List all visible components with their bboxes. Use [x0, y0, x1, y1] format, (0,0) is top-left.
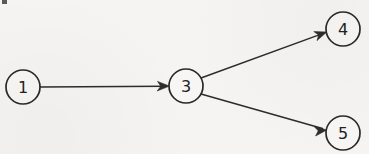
graph-node-4[interactable]: 4	[326, 12, 360, 46]
graph-node-5[interactable]: 5	[326, 116, 360, 150]
graph-node-1[interactable]: 1	[6, 70, 40, 104]
edge-3-to-4-line	[201, 34, 323, 78]
edge-3-to-5-line	[201, 94, 323, 129]
graph-node-1-label: 1	[18, 78, 28, 97]
graph-node-4-label: 4	[338, 20, 348, 39]
edge-3-to-5-arrowhead	[314, 127, 327, 136]
edge-1-to-3	[40, 81, 170, 91]
graph-node-5-label: 5	[338, 124, 348, 143]
edge-3-to-4	[201, 32, 327, 78]
edge-3-to-5	[201, 94, 327, 136]
graph-node-3[interactable]: 3	[169, 69, 203, 103]
diagram-canvas: 1 3 4 5	[0, 0, 369, 154]
directed-graph: 1 3 4 5	[0, 0, 369, 154]
graph-node-3-label: 3	[181, 77, 191, 96]
edge-1-to-3-line	[40, 86, 165, 87]
